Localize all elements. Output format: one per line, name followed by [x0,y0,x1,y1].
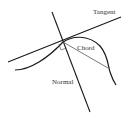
normal-label: Normal [52,78,73,86]
diagram-canvas: Tangent Chord Normal [0,0,132,120]
normal-line [52,12,90,112]
tangent-line [8,17,121,62]
tangent-label: Tangent [93,8,116,16]
chord-label: Chord [77,44,95,52]
